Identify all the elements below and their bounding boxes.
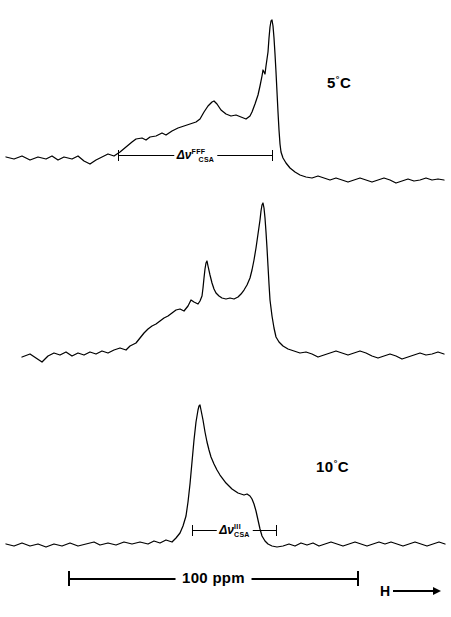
scale-bar: 100 ppm <box>68 566 359 590</box>
csa-width-annotation-20c: ΔνIIICSA <box>192 517 277 543</box>
temperature-value: 5 <box>327 74 336 91</box>
annotation-end-cap-right <box>272 150 273 161</box>
temperature-label-5c: 5°C <box>327 74 351 91</box>
scale-bar-end-cap-right <box>357 571 359 586</box>
annotation-label: ΔνFFFCSA <box>174 142 217 170</box>
temperature-unit: C <box>340 74 351 91</box>
annotation-subscript: CSA <box>199 150 215 170</box>
spectrum-trace-10c <box>0 190 451 380</box>
annotation-label: ΔνIIICSA <box>216 517 252 545</box>
field-direction-label: H <box>380 583 390 599</box>
annotation-end-cap-left <box>118 150 119 161</box>
annotation-end-cap-right <box>276 525 277 536</box>
csa-width-annotation-5c: ΔνFFFCSA <box>118 142 273 168</box>
spectrum-panel-5c: 5°C ΔνFFFCSA <box>0 0 451 190</box>
scale-bar-end-cap-left <box>68 571 70 586</box>
delta-nu-symbol: Δν <box>219 523 234 537</box>
spectrum-panel-10c: 10°C <box>0 190 451 380</box>
annotation-subscript: CSA <box>234 525 250 545</box>
right-arrow-icon <box>393 585 441 597</box>
field-direction-indicator: H <box>380 580 441 602</box>
scale-bar-label: 100 ppm <box>175 566 252 590</box>
annotation-end-cap-left <box>192 525 193 536</box>
nmr-spectra-figure: 5°C ΔνFFFCSA 10°C 20°C ΔνIIIC <box>0 0 451 617</box>
delta-nu-symbol: Δν <box>177 148 192 162</box>
